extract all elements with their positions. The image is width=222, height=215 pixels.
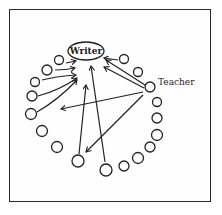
classroom-diagram: Writer Teacher (0, 0, 222, 215)
student-node-1 (42, 65, 52, 75)
student-node-6 (52, 142, 63, 153)
arrow-student-0-to-writer (66, 61, 76, 63)
student-node-15 (134, 68, 143, 77)
student-node-14 (153, 98, 162, 107)
student-node-11 (145, 142, 155, 152)
student-node-7 (72, 155, 84, 167)
student-node-5 (37, 126, 48, 137)
arrow-student-2-to-writer (42, 75, 76, 80)
arrow-teacher-to-student-bottom (86, 95, 143, 152)
student-node-16 (120, 55, 129, 64)
student-node-3 (27, 91, 37, 101)
teacher-label: Teacher (158, 77, 195, 87)
student-node-12 (152, 130, 163, 141)
student-node-13 (152, 113, 162, 123)
student-node-10 (133, 153, 144, 164)
student-node-0 (55, 56, 64, 65)
students-ring (26, 55, 163, 177)
writer-label: Writer (69, 46, 103, 56)
arrow-student-3-to-writer (38, 78, 77, 96)
student-node-8 (100, 164, 112, 176)
arrow-student-7-to-writer (79, 85, 86, 154)
arrow-teacher-to-student-left (61, 92, 143, 109)
teacher-node (145, 82, 155, 92)
arrow-student-1-to-writer (55, 68, 75, 70)
arrow-student-8-to-writer (91, 66, 105, 162)
student-node-9 (119, 161, 129, 171)
arrow-student-16-to-writer (104, 58, 118, 60)
student-node-4 (26, 109, 37, 120)
student-node-2 (31, 78, 40, 87)
